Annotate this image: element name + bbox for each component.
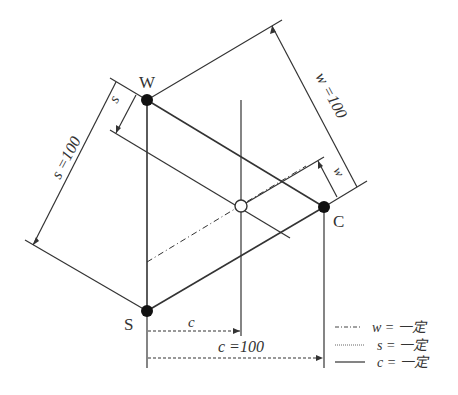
vertex-c-marker [318, 201, 330, 213]
c-full-label: c =100 [218, 338, 264, 355]
ternary-diagram: W S C s =100 s w =100 w c c =100 w = 一定 … [0, 0, 458, 395]
legend-s-label: s = 一定 [377, 338, 429, 353]
s-extension-bottom [25, 240, 147, 311]
c-partial-label: c [188, 314, 195, 330]
legend-c-label: c = 一定 [377, 355, 430, 370]
s-dimension-line [33, 82, 116, 245]
w-const-line [147, 166, 306, 262]
legend-w-label: w = 一定 [372, 320, 428, 335]
edge-s-c [147, 207, 324, 311]
vertex-s-label: S [124, 315, 133, 334]
arrowhead [316, 355, 323, 361]
composition-point-marker [235, 200, 247, 212]
s-partial-extension [110, 130, 290, 238]
s-partial-label: s [106, 93, 123, 106]
edge-w-c [147, 100, 324, 207]
legend: w = 一定 s = 一定 c = 一定 [335, 320, 430, 370]
arrowhead [233, 328, 240, 334]
vertex-w-marker [141, 94, 153, 106]
vertex-c-label: C [333, 212, 344, 231]
w-extension-top [147, 20, 282, 100]
arrowhead [33, 237, 39, 245]
vertex-w-label: W [139, 73, 156, 92]
w-partial-label: w [330, 164, 347, 179]
vertex-s-marker [141, 305, 153, 317]
s-full-label: s =100 [48, 134, 84, 182]
